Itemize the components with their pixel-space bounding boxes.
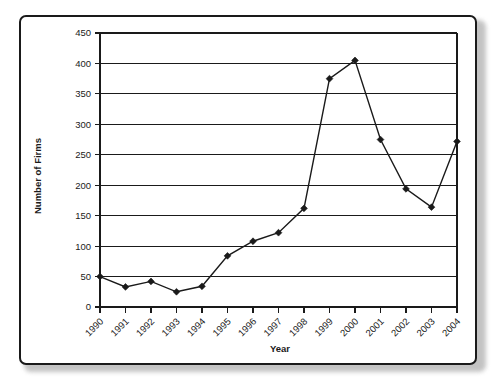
axes: [100, 33, 457, 307]
x-tick-label: 1991: [108, 316, 131, 339]
y-tick-label: 150: [75, 210, 91, 221]
y-axis-title: Number of Firms: [32, 138, 43, 214]
data-point-marker: [173, 288, 180, 295]
y-tick-label: 450: [75, 27, 91, 38]
y-tick-label: 0: [86, 301, 91, 312]
data-point-marker: [122, 284, 129, 291]
x-tick-label: 1992: [134, 316, 157, 339]
x-tick-label: 1996: [236, 316, 259, 339]
gridlines: [100, 33, 457, 277]
series-line: [100, 60, 457, 291]
data-point-marker: [250, 238, 257, 245]
y-tick-label: 300: [75, 119, 91, 130]
chart-page: 050100150200250300350400450 199019911992…: [0, 0, 500, 384]
data-point-marker: [97, 273, 104, 280]
x-tick-label: 1994: [185, 316, 208, 339]
x-tick-label: 1990: [83, 316, 106, 339]
y-axis-ticks: 050100150200250300350400450: [75, 27, 100, 312]
x-tick-label: 1997: [261, 316, 284, 339]
y-tick-label: 350: [75, 88, 91, 99]
x-tick-label: 1995: [210, 316, 233, 339]
y-tick-label: 400: [75, 58, 91, 69]
x-tick-label: 2001: [363, 316, 386, 339]
x-tick-label: 2002: [389, 316, 412, 339]
x-tick-label: 2000: [338, 316, 361, 339]
y-tick-label: 100: [75, 241, 91, 252]
y-tick-label: 50: [80, 271, 91, 282]
x-tick-label: 2004: [440, 316, 463, 339]
data-point-marker: [148, 278, 155, 285]
data-series: [97, 57, 461, 295]
x-axis-ticks: 1990199119921993199419951996199719981999…: [83, 307, 463, 338]
data-point-marker: [377, 136, 384, 143]
x-axis-title: Year: [270, 343, 290, 354]
x-tick-label: 2003: [414, 316, 437, 339]
data-point-marker: [454, 138, 461, 145]
line-chart: 050100150200250300350400450 199019911992…: [0, 0, 500, 384]
x-tick-label: 1993: [159, 316, 182, 339]
y-tick-label: 250: [75, 149, 91, 160]
x-tick-label: 1998: [287, 316, 310, 339]
y-tick-label: 200: [75, 180, 91, 191]
x-tick-label: 1999: [312, 316, 335, 339]
